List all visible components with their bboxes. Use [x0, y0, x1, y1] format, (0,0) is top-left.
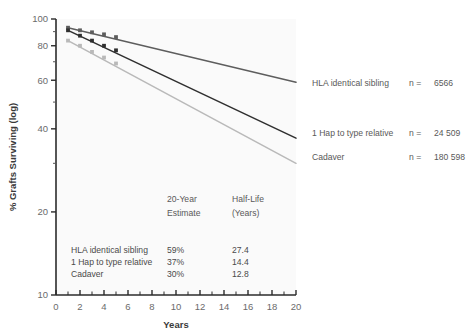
- stats-row-half-life: 12.8: [232, 269, 249, 279]
- stats-row-name: 1 Hap to type relative: [71, 257, 152, 267]
- legend-n-value: 24 509: [434, 128, 460, 138]
- stats-row-half-life: 14.4: [232, 257, 249, 267]
- legend-n-value: 180 598: [434, 152, 465, 162]
- stats-table-header-line1: Half-Life: [232, 194, 264, 204]
- stats-row-estimate: 37%: [167, 257, 184, 267]
- legend-n-label: n =: [409, 78, 421, 88]
- legend-label: HLA identical sibling: [312, 78, 389, 88]
- stats-row-name: HLA identical sibling: [71, 245, 148, 255]
- stats-row-estimate: 59%: [167, 245, 184, 255]
- stats-row-estimate: 30%: [167, 269, 184, 279]
- legend-n-value: 6566: [434, 78, 453, 88]
- stats-table-header-line1: 20-Year: [167, 194, 197, 204]
- chart-figure: 102040608010002468101214161820Years% Gra…: [0, 0, 475, 331]
- stats-table-header-line2: Estimate: [167, 208, 200, 218]
- stats-row-half-life: 27.4: [232, 245, 249, 255]
- text-overlay: HLA identical siblingn =65661 Hap to typ…: [0, 0, 475, 331]
- stats-row-name: Cadaver: [71, 269, 103, 279]
- stats-table-header-line2: (Years): [232, 208, 259, 218]
- legend-n-label: n =: [409, 128, 421, 138]
- legend-label: 1 Hap to type relative: [312, 128, 393, 138]
- legend-n-label: n =: [409, 152, 421, 162]
- legend-label: Cadaver: [312, 152, 344, 162]
